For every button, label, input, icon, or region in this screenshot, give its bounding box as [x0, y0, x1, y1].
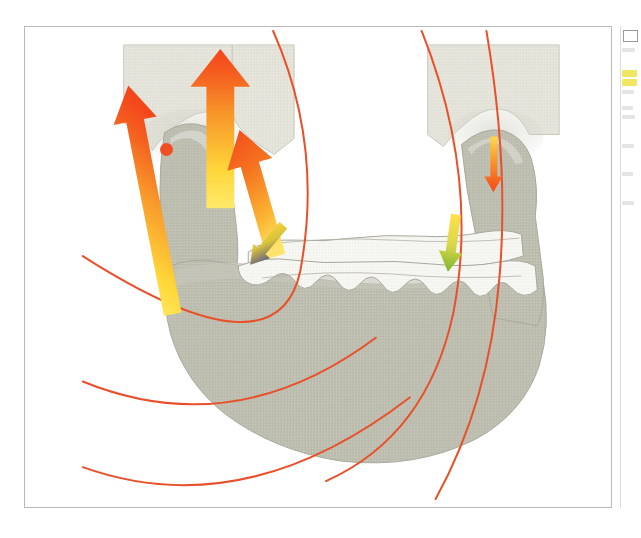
margin-text-line: [622, 115, 635, 119]
page-margin-text: partially cropped body text at right pag…: [620, 26, 641, 508]
figure-frame: Mandible force-vector and stress-traject…: [24, 26, 612, 508]
margin-text-line: [622, 48, 635, 52]
margin-figure-marker: [623, 30, 638, 42]
margin-text-line: [622, 106, 633, 110]
rotation-center-marker: [160, 143, 173, 156]
margin-rule: [620, 26, 621, 508]
margin-text-line-highlighted: [622, 70, 637, 77]
margin-text-line-highlighted: [622, 79, 637, 86]
jaw-biomechanics-diagram: [25, 27, 611, 507]
margin-text-line: [622, 201, 634, 205]
page-canvas: Mandible force-vector and stress-traject…: [0, 0, 641, 538]
margin-text-line: [622, 90, 634, 94]
margin-text-line: [622, 144, 634, 148]
margin-text-line: [622, 172, 633, 176]
